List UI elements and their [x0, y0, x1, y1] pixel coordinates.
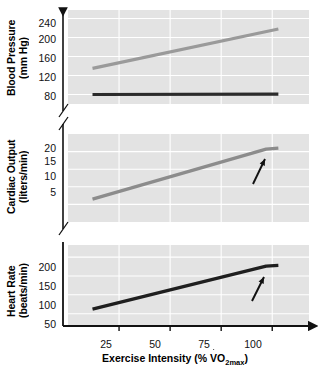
- plot-area-heart-rate: [68, 245, 309, 325]
- y-axis-blood-pressure: [59, 12, 68, 117]
- x-axis-line: [63, 326, 313, 331]
- plot-canvas: [0, 0, 323, 368]
- plot-area-cardiac-output: [68, 134, 309, 222]
- y-axis-cardiac-output: [59, 117, 68, 235]
- physiology-response-chart: Blood Pressure (mm Hg) 240 200 160 120 8…: [0, 0, 323, 368]
- plot-area-blood-pressure: [68, 10, 309, 104]
